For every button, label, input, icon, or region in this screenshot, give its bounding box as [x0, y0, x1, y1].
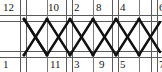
joint-label-12: 12 [3, 2, 14, 13]
joint-label-9: 9 [99, 59, 105, 70]
joint-label-6: 6 [159, 2, 162, 13]
joint-label-3: 3 [74, 59, 80, 70]
joint-label-4: 4 [120, 2, 126, 13]
vertical-post-0 [21, 0, 27, 72]
joint-label-7: 7 [159, 59, 162, 70]
truss-drawing [0, 0, 162, 72]
vertical-post-2 [113, 0, 119, 72]
joint-label-5: 5 [120, 59, 126, 70]
brace-p3-d [139, 22, 160, 55]
joint-label-1: 1 [3, 59, 9, 70]
joint-label-2: 2 [74, 2, 80, 13]
brace-p3-c [139, 19, 160, 52]
joint-label-10: 10 [48, 2, 59, 13]
joint-label-8: 8 [96, 2, 102, 13]
truss-diagram: 12 10 2 8 4 6 1 11 3 9 5 7 [0, 0, 162, 72]
joint-label-11: 11 [50, 59, 61, 70]
vertical-post-1 [67, 0, 73, 72]
